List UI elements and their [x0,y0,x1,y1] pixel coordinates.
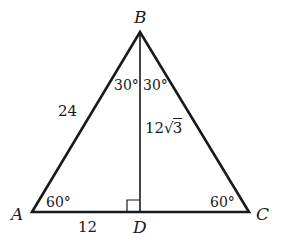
angle-label-b-left: 30° [114,78,139,92]
length-label-ad: 12 [78,220,97,235]
angle-label-c: 60° [210,195,235,209]
angle-label-a: 60° [46,195,71,209]
length-label-ab: 24 [58,104,77,119]
triangle-figure [0,0,285,239]
vertex-label-d: D [133,219,147,236]
right-angle-marker [127,200,140,212]
angle-label-b-right: 30° [143,78,168,92]
length-bd-coefficient: 12 [145,119,164,137]
length-bd-radicand: 3 [173,118,183,137]
vertex-label-a: A [11,206,23,223]
vertex-label-c: C [256,206,269,223]
length-label-bd: 12√3 [145,121,182,136]
vertex-label-b: B [134,9,147,26]
triangle-diagram: B A D C 30° 30° 60° 60° 24 12 12√3 [0,0,285,239]
sqrt-symbol: √3 [164,121,182,136]
